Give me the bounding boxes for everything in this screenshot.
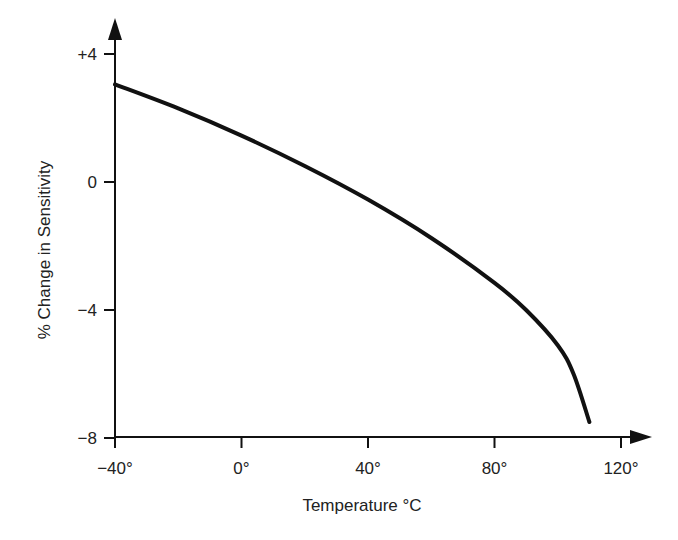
- data-line: [115, 84, 589, 422]
- y-tick-label: 0: [88, 173, 97, 192]
- x-ticks: −40°0°40°80°120°: [97, 437, 638, 478]
- y-axis-arrow-icon: [108, 18, 122, 40]
- chart: +40−4−8 −40°0°40°80°120° Temperature °C …: [0, 0, 678, 540]
- y-tick-label: −4: [78, 301, 97, 320]
- y-axis-title: % Change in Sensitivity: [35, 160, 54, 339]
- x-tick-label: 40°: [355, 459, 381, 478]
- y-ticks: +40−4−8: [78, 45, 115, 448]
- x-tick-label: 80°: [482, 459, 508, 478]
- x-axis: [115, 430, 652, 444]
- x-axis-title: Temperature °C: [302, 496, 421, 515]
- x-tick-label: −40°: [97, 459, 133, 478]
- y-tick-label: +4: [78, 45, 97, 64]
- x-tick-label: 0°: [233, 459, 249, 478]
- x-tick-label: 120°: [603, 459, 638, 478]
- y-tick-label: −8: [78, 429, 97, 448]
- x-axis-arrow-icon: [630, 430, 652, 444]
- y-axis: [108, 18, 122, 437]
